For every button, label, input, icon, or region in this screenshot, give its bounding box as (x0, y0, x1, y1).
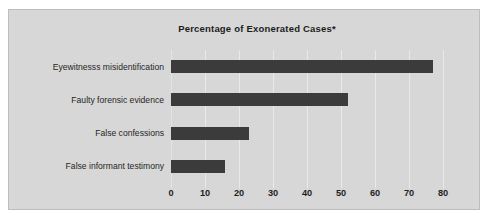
chart-title: Percentage of Exonerated Cases* (9, 23, 479, 34)
bar (171, 127, 249, 140)
gridline-80 (443, 50, 444, 188)
chart-panel: Percentage of Exonerated Cases* Eyewitne… (8, 9, 480, 210)
x-tick-label: 70 (404, 188, 414, 198)
x-tick-label: 60 (370, 188, 380, 198)
bar (171, 160, 225, 173)
chart-figure: Percentage of Exonerated Cases* Eyewitne… (0, 0, 490, 222)
plot-area: Eyewitnesss misidentificationFaulty fore… (171, 50, 443, 183)
x-tick-label: 20 (234, 188, 244, 198)
bar-row: Eyewitnesss misidentification (171, 60, 443, 73)
bar-row: False informant testimony (171, 160, 443, 173)
bar-row: Faulty forensic evidence (171, 93, 443, 106)
bar-row: False confessions (171, 127, 443, 140)
category-label: Faulty forensic evidence (71, 95, 164, 105)
x-tick-label: 50 (336, 188, 346, 198)
x-tick-label: 10 (200, 188, 210, 198)
x-axis-tick-labels: 01020304050607080 (171, 188, 443, 204)
x-tick-label: 30 (268, 188, 278, 198)
category-label: False confessions (95, 128, 164, 138)
x-tick-label: 40 (302, 188, 312, 198)
x-tick-label: 0 (168, 188, 173, 198)
x-tick-label: 80 (438, 188, 448, 198)
bar (171, 93, 348, 106)
category-label: Eyewitnesss misidentification (53, 62, 164, 72)
category-label: False informant testimony (66, 161, 164, 171)
bar (171, 60, 433, 73)
